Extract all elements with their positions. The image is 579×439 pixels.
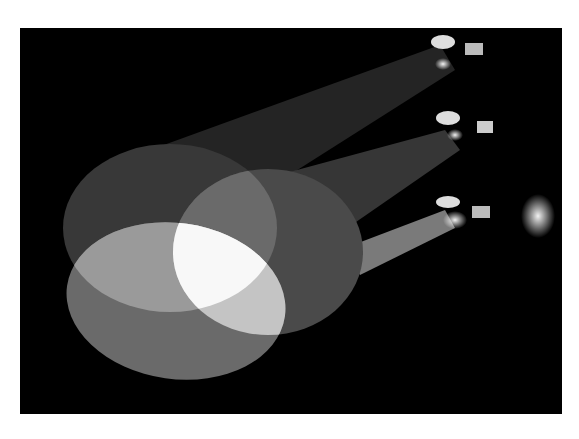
spotlight-photo: [20, 28, 562, 414]
spotlight-illustration: [20, 28, 562, 414]
